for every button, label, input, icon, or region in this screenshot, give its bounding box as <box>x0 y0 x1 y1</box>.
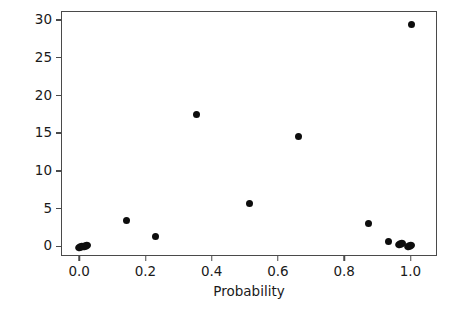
scatter-plot-figure: Delta Chi-Square 051015202530 0.00.20.40… <box>0 0 458 309</box>
x-axis-tick-label: 0.2 <box>135 261 156 279</box>
x-axis-tick-label: 0.8 <box>333 261 354 279</box>
y-axis-tick-label: 10 <box>35 164 56 178</box>
data-point <box>365 220 372 227</box>
y-axis-tick-label: 15 <box>35 126 56 140</box>
y-axis-tick-label: 0 <box>43 239 56 253</box>
data-point <box>403 241 416 252</box>
plot-frame <box>61 11 437 256</box>
data-point <box>408 21 415 28</box>
y-axis-tick-label: 30 <box>35 13 56 27</box>
x-axis-ticks: 0.00.20.40.60.81.0 <box>61 256 437 282</box>
x-axis-tick: 1.0 <box>400 256 421 279</box>
data-area <box>62 12 436 255</box>
x-axis-tick: 0.6 <box>267 256 288 279</box>
x-axis-tick: 0.4 <box>201 256 222 279</box>
data-point <box>123 217 130 224</box>
x-axis-tick: 0.0 <box>68 256 89 279</box>
data-point <box>193 111 200 118</box>
y-axis-tick-label: 5 <box>43 202 56 216</box>
x-axis-tick: 0.8 <box>333 256 354 279</box>
data-point <box>295 133 302 140</box>
x-axis-tick: 0.2 <box>135 256 156 279</box>
x-axis-tick-label: 0.6 <box>267 261 288 279</box>
x-axis-tick-label: 0.4 <box>201 261 222 279</box>
y-axis-tick-label: 20 <box>35 89 56 103</box>
x-axis-tick-label: 0.0 <box>68 261 89 279</box>
y-axis-ticks: 051015202530 <box>0 11 61 256</box>
data-point <box>152 233 159 240</box>
data-point <box>385 238 392 245</box>
x-axis-title: Probability <box>61 283 437 299</box>
data-point <box>246 200 253 207</box>
y-axis-tick-label: 25 <box>35 51 56 65</box>
x-axis-tick-label: 1.0 <box>400 261 421 279</box>
